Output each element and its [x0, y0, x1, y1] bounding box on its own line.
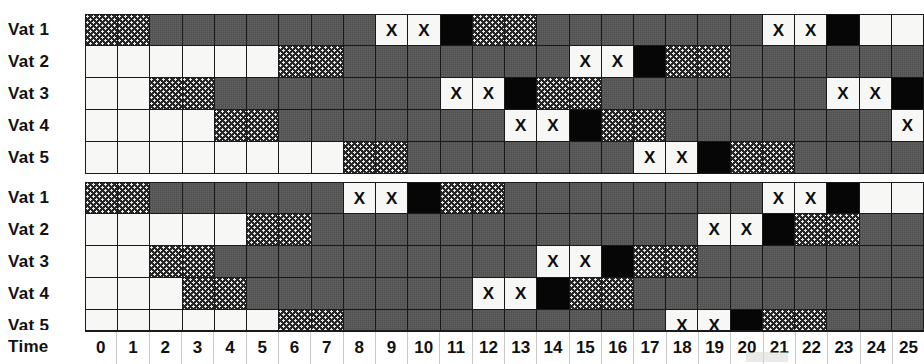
schedule-cell-process[interactable] — [763, 246, 795, 278]
schedule-cell-process[interactable] — [860, 246, 892, 278]
schedule-cell-process[interactable] — [247, 182, 279, 214]
schedule-cell-process[interactable] — [763, 46, 795, 78]
schedule-cell-process[interactable] — [795, 46, 827, 78]
schedule-cell-fill[interactable] — [279, 214, 311, 246]
schedule-cell-process[interactable] — [570, 14, 602, 46]
schedule-cell-process[interactable] — [666, 110, 698, 142]
schedule-cell-empty[interactable] — [150, 110, 182, 142]
schedule-cell-black[interactable] — [408, 182, 440, 214]
schedule-cell-x[interactable]: X — [763, 14, 795, 46]
schedule-cell-process[interactable] — [344, 246, 376, 278]
schedule-cell-process[interactable] — [537, 46, 569, 78]
schedule-cell-process[interactable] — [408, 246, 440, 278]
schedule-cell-process[interactable] — [763, 110, 795, 142]
schedule-cell-process[interactable] — [183, 182, 215, 214]
schedule-cell-process[interactable] — [666, 78, 698, 110]
schedule-cell-fill[interactable] — [312, 46, 344, 78]
schedule-cell-black[interactable] — [570, 110, 602, 142]
schedule-cell-black[interactable] — [441, 14, 473, 46]
schedule-cell-empty[interactable] — [860, 14, 892, 46]
schedule-cell-process[interactable] — [505, 182, 537, 214]
schedule-cell-fill[interactable] — [247, 214, 279, 246]
schedule-cell-black[interactable] — [892, 78, 924, 110]
schedule-cell-empty[interactable] — [150, 142, 182, 174]
schedule-cell-process[interactable] — [408, 214, 440, 246]
schedule-cell-x[interactable]: X — [763, 182, 795, 214]
schedule-cell-process[interactable] — [602, 214, 634, 246]
schedule-cell-process[interactable] — [473, 214, 505, 246]
schedule-cell-x[interactable]: X — [473, 278, 505, 310]
schedule-cell-process[interactable] — [505, 46, 537, 78]
schedule-cell-process[interactable] — [215, 182, 247, 214]
schedule-cell-empty[interactable] — [860, 182, 892, 214]
schedule-cell-fill[interactable] — [698, 46, 730, 78]
schedule-cell-process[interactable] — [312, 110, 344, 142]
schedule-cell-process[interactable] — [537, 214, 569, 246]
schedule-cell-black[interactable] — [537, 278, 569, 310]
schedule-cell-empty[interactable] — [183, 110, 215, 142]
schedule-cell-process[interactable] — [795, 78, 827, 110]
schedule-cell-process[interactable] — [215, 246, 247, 278]
schedule-cell-process[interactable] — [666, 278, 698, 310]
schedule-cell-process[interactable] — [570, 142, 602, 174]
schedule-cell-black[interactable] — [602, 246, 634, 278]
schedule-cell-fill[interactable] — [183, 78, 215, 110]
schedule-cell-fill[interactable] — [795, 214, 827, 246]
schedule-cell-process[interactable] — [892, 46, 924, 78]
schedule-cell-process[interactable] — [408, 46, 440, 78]
schedule-cell-fill[interactable] — [247, 110, 279, 142]
schedule-cell-process[interactable] — [698, 78, 730, 110]
schedule-cell-fill[interactable] — [441, 182, 473, 214]
schedule-cell-empty[interactable] — [118, 78, 150, 110]
schedule-cell-process[interactable] — [795, 110, 827, 142]
schedule-cell-process[interactable] — [505, 246, 537, 278]
schedule-cell-process[interactable] — [892, 278, 924, 310]
schedule-cell-x[interactable]: X — [537, 246, 569, 278]
schedule-cell-process[interactable] — [215, 14, 247, 46]
schedule-cell-process[interactable] — [634, 182, 666, 214]
schedule-cell-process[interactable] — [312, 278, 344, 310]
schedule-cell-process[interactable] — [860, 214, 892, 246]
schedule-cell-empty[interactable] — [118, 110, 150, 142]
schedule-cell-process[interactable] — [473, 110, 505, 142]
schedule-cell-x[interactable]: X — [860, 78, 892, 110]
schedule-cell-empty[interactable] — [183, 46, 215, 78]
schedule-cell-process[interactable] — [698, 246, 730, 278]
schedule-cell-empty[interactable] — [312, 142, 344, 174]
schedule-cell-process[interactable] — [892, 142, 924, 174]
schedule-cell-process[interactable] — [827, 246, 859, 278]
schedule-cell-process[interactable] — [344, 110, 376, 142]
schedule-cell-process[interactable] — [279, 78, 311, 110]
schedule-cell-empty[interactable] — [85, 142, 118, 174]
schedule-cell-process[interactable] — [602, 142, 634, 174]
schedule-cell-process[interactable] — [279, 246, 311, 278]
schedule-cell-x[interactable]: X — [795, 14, 827, 46]
schedule-cell-process[interactable] — [537, 182, 569, 214]
schedule-cell-process[interactable] — [150, 14, 182, 46]
schedule-cell-process[interactable] — [376, 278, 408, 310]
schedule-cell-x[interactable]: X — [570, 246, 602, 278]
schedule-cell-empty[interactable] — [215, 142, 247, 174]
schedule-cell-process[interactable] — [860, 142, 892, 174]
schedule-cell-black[interactable] — [634, 46, 666, 78]
schedule-cell-process[interactable] — [731, 110, 763, 142]
schedule-cell-process[interactable] — [247, 246, 279, 278]
schedule-cell-process[interactable] — [473, 46, 505, 78]
schedule-cell-empty[interactable] — [85, 46, 118, 78]
schedule-cell-x[interactable]: X — [441, 78, 473, 110]
schedule-cell-process[interactable] — [731, 78, 763, 110]
schedule-cell-process[interactable] — [666, 14, 698, 46]
schedule-cell-process[interactable] — [892, 214, 924, 246]
schedule-cell-process[interactable] — [376, 46, 408, 78]
schedule-cell-process[interactable] — [408, 142, 440, 174]
schedule-cell-fill[interactable] — [634, 110, 666, 142]
schedule-cell-process[interactable] — [279, 110, 311, 142]
schedule-cell-process[interactable] — [441, 214, 473, 246]
schedule-cell-process[interactable] — [602, 78, 634, 110]
schedule-cell-process[interactable] — [376, 110, 408, 142]
schedule-cell-process[interactable] — [892, 246, 924, 278]
schedule-cell-empty[interactable] — [247, 46, 279, 78]
schedule-cell-x[interactable]: X — [376, 14, 408, 46]
schedule-cell-process[interactable] — [666, 182, 698, 214]
schedule-cell-process[interactable] — [441, 246, 473, 278]
